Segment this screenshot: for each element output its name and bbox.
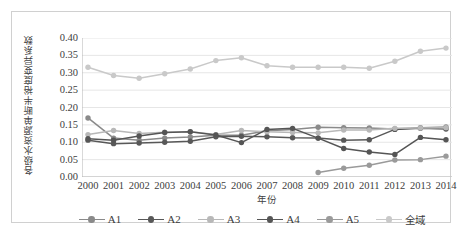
data-point: [188, 66, 193, 71]
data-point: [418, 157, 423, 162]
data-point: [264, 63, 269, 68]
series-A5: [315, 153, 448, 175]
data-point: [239, 140, 244, 145]
data-point: [239, 134, 244, 139]
data-point: [111, 137, 116, 142]
data-point: [213, 132, 218, 137]
y-axis-tick-label: 0.10: [46, 137, 78, 148]
data-point: [315, 170, 320, 175]
data-point: [290, 64, 295, 69]
legend-swatch-icon: [138, 214, 164, 224]
y-axis-tick-labels: 0.000.050.100.150.200.250.300.350.40: [40, 12, 78, 237]
data-point: [188, 139, 193, 144]
data-point: [341, 64, 346, 69]
y-axis-title-text: 各级水资源单断半裕度变异系数: [22, 35, 36, 175]
data-point: [392, 152, 397, 157]
data-series-group: [85, 45, 448, 175]
data-point: [264, 134, 269, 139]
data-point: [290, 135, 295, 140]
data-point: [136, 133, 141, 138]
legend-item-全域[interactable]: 全域: [376, 212, 425, 227]
data-point: [111, 73, 116, 78]
legend-label: A1: [108, 213, 121, 225]
legend-item-A4[interactable]: A4: [257, 213, 299, 225]
legend-item-A2[interactable]: A2: [138, 213, 180, 225]
data-point: [239, 55, 244, 60]
legend-item-A5[interactable]: A5: [317, 213, 359, 225]
data-point: [85, 64, 90, 69]
legend-label: A3: [227, 213, 240, 225]
legend-label: A2: [167, 213, 180, 225]
y-axis-tick-label: 0.40: [46, 33, 78, 44]
legend-label: A5: [346, 213, 359, 225]
chart-frame: 各级水资源单断半裕度变异系数 0.000.050.100.150.200.250…: [11, 11, 451, 223]
legend-swatch-icon: [257, 214, 283, 224]
data-point: [315, 125, 320, 130]
y-axis-tick-label: 0.05: [46, 155, 78, 166]
data-point: [443, 125, 448, 130]
data-point: [392, 59, 397, 64]
data-point: [418, 135, 423, 140]
data-point: [367, 137, 372, 142]
data-point: [162, 140, 167, 145]
data-point: [341, 146, 346, 151]
data-point: [392, 157, 397, 162]
data-point: [341, 166, 346, 171]
data-point: [367, 127, 372, 132]
legend-label: 全域: [405, 212, 425, 227]
data-point: [111, 128, 116, 133]
data-point: [443, 45, 448, 50]
legend-label: A4: [286, 213, 299, 225]
y-axis-tick-label: 0.35: [46, 50, 78, 61]
data-point: [162, 71, 167, 76]
data-point: [418, 125, 423, 130]
data-point: [443, 137, 448, 142]
data-point: [136, 140, 141, 145]
data-point: [239, 128, 244, 133]
legend-item-A3[interactable]: A3: [198, 213, 240, 225]
data-point: [213, 58, 218, 63]
line-chart-svg: [82, 38, 452, 177]
data-point: [264, 127, 269, 132]
series-全域: [85, 45, 448, 81]
y-axis-tick-label: 0.25: [46, 85, 78, 96]
plot-area: [82, 38, 452, 177]
data-point: [367, 66, 372, 71]
legend-swatch-icon: [198, 214, 224, 224]
legend-swatch-icon: [317, 214, 343, 224]
data-point: [341, 127, 346, 132]
legend-swatch-icon: [376, 214, 402, 224]
y-axis-title: 各级水资源单断半裕度变异系数: [20, 30, 38, 180]
data-point: [136, 76, 141, 81]
data-point: [188, 129, 193, 134]
data-point: [367, 162, 372, 167]
data-point: [85, 115, 90, 120]
data-point: [443, 153, 448, 158]
data-point: [315, 64, 320, 69]
data-point: [341, 137, 346, 142]
data-point: [367, 149, 372, 154]
x-axis-title: 年份: [82, 192, 452, 206]
data-point: [315, 135, 320, 140]
data-point: [392, 126, 397, 131]
legend-item-A1[interactable]: A1: [79, 213, 121, 225]
data-point: [162, 130, 167, 135]
data-point: [290, 126, 295, 131]
data-point: [315, 130, 320, 135]
y-axis-tick-label: 0.30: [46, 68, 78, 79]
series-line: [318, 156, 446, 172]
y-axis-tick-label: 0.20: [46, 103, 78, 114]
data-point: [85, 136, 90, 141]
x-axis-tick-label: 2014: [426, 180, 464, 192]
y-axis-tick-label: 0.15: [46, 120, 78, 131]
legend-swatch-icon: [79, 214, 105, 224]
data-point: [418, 49, 423, 54]
chart-legend: A1A2A3A4A5全域: [52, 210, 452, 228]
